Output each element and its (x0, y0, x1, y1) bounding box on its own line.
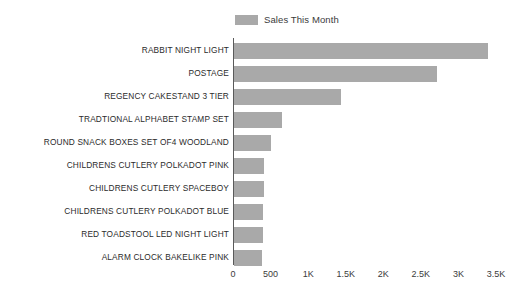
bar (234, 204, 263, 220)
bar (234, 181, 264, 197)
legend-swatch (235, 15, 258, 25)
bar-row: ROUND SNACK BOXES SET OF4 WOODLAND (0, 131, 530, 154)
bar (234, 89, 341, 105)
bar-row: CHILDRENS CUTLERY POLKADOT BLUE (0, 200, 530, 223)
bar-chart: Sales This Month RABBIT NIGHT LIGHTPOSTA… (0, 0, 530, 300)
category-label: CHILDRENS CUTLERY POLKADOT BLUE (64, 200, 229, 223)
category-label: RED TOADSTOOL LED NIGHT LIGHT (81, 223, 229, 246)
bar-row: CHILDRENS CUTLERY SPACEBOY (0, 177, 530, 200)
category-label: CHILDRENS CUTLERY SPACEBOY (89, 177, 229, 200)
category-label: TRADTIONAL ALPHABET STAMP SET (79, 108, 229, 131)
x-axis-tick-label: 3K (453, 269, 464, 279)
bar (234, 227, 263, 243)
bar (234, 158, 264, 174)
x-axis-tick-label: 2.5K (412, 269, 431, 279)
x-axis-tick-label: 3.5K (487, 269, 506, 279)
bar (234, 112, 282, 128)
bar-row: POSTAGE (0, 62, 530, 85)
bar-row: REGENCY CAKESTAND 3 TIER (0, 85, 530, 108)
bar (234, 135, 271, 151)
x-axis-tick-label: 500 (263, 269, 278, 279)
category-label: REGENCY CAKESTAND 3 TIER (104, 85, 229, 108)
chart-legend: Sales This Month (235, 13, 339, 26)
bar (234, 250, 262, 266)
bar (234, 66, 437, 82)
category-label: POSTAGE (188, 62, 229, 85)
x-axis-tick-label: 0 (230, 269, 235, 279)
x-axis: 05001K1.5K2K2.5K3K3.5K (0, 265, 530, 289)
bar (234, 43, 488, 59)
category-label: ROUND SNACK BOXES SET OF4 WOODLAND (44, 131, 229, 154)
bar-row: RABBIT NIGHT LIGHT (0, 39, 530, 62)
legend-item-label: Sales This Month (264, 14, 339, 25)
x-axis-tick-label: 2K (378, 269, 389, 279)
bar-row: TRADTIONAL ALPHABET STAMP SET (0, 108, 530, 131)
category-label: RABBIT NIGHT LIGHT (142, 39, 229, 62)
x-axis-tick-label: 1K (303, 269, 314, 279)
x-axis-tick-label: 1.5K (336, 269, 355, 279)
plot-area: RABBIT NIGHT LIGHTPOSTAGEREGENCY CAKESTA… (0, 36, 530, 266)
category-label: CHILDRENS CUTLERY POLKADOT PINK (67, 154, 229, 177)
bar-row: RED TOADSTOOL LED NIGHT LIGHT (0, 223, 530, 246)
bar-row: CHILDRENS CUTLERY POLKADOT PINK (0, 154, 530, 177)
